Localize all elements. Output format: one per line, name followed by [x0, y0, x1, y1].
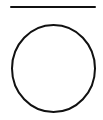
symbol-figure	[0, 0, 103, 120]
circle-shape	[12, 25, 95, 112]
